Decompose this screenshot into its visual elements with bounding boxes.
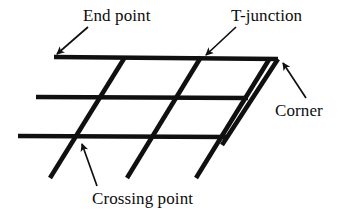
middle-horizontal-line — [36, 97, 248, 98]
label-t-junction: T-junction — [231, 6, 302, 25]
t-junction-arrow — [206, 27, 236, 55]
bottom-horizontal-line — [18, 136, 228, 137]
crossing-point-arrow — [82, 144, 97, 186]
label-crossing-point: Crossing point — [92, 189, 193, 208]
top-horizontal-line — [54, 57, 278, 59]
horizontal-lines-group — [18, 57, 278, 137]
diagonal-line-2 — [127, 57, 201, 178]
line-junction-figure: End point T-junction Corner Crossing poi… — [0, 0, 347, 219]
label-corner: Corner — [275, 101, 323, 120]
diagonal-line-4 — [222, 59, 278, 145]
end-point-arrow — [57, 27, 88, 54]
corner-arrow — [283, 63, 306, 98]
label-end-point: End point — [83, 6, 150, 25]
diagonal-line-3 — [196, 58, 270, 178]
diagonal-lines-group — [50, 57, 278, 178]
